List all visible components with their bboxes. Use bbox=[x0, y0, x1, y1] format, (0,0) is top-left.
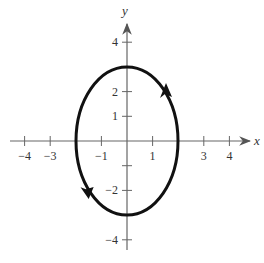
y-tick-label: 4 bbox=[112, 35, 118, 49]
x-ticks: −4−3−1134 bbox=[18, 136, 232, 163]
y-tick-label: 2 bbox=[112, 85, 118, 99]
x-tick-label: 1 bbox=[150, 149, 156, 163]
x-tick-label: 3 bbox=[201, 149, 207, 163]
y-tick-label: −2 bbox=[105, 183, 118, 197]
parametric-ellipse-plot: x y −4−3−1134 421−2−4 bbox=[0, 0, 264, 263]
y-axis: y bbox=[120, 3, 128, 250]
y-axis-label: y bbox=[120, 3, 128, 18]
x-tick-label: 4 bbox=[226, 149, 232, 163]
x-axis-label: x bbox=[253, 133, 260, 148]
x-axis: x bbox=[10, 133, 260, 148]
x-tick-label: −3 bbox=[44, 149, 57, 163]
x-tick-label: −4 bbox=[18, 149, 31, 163]
y-tick-label: −4 bbox=[105, 233, 118, 247]
y-tick-label: 1 bbox=[112, 109, 118, 123]
x-tick-label: −1 bbox=[95, 149, 108, 163]
